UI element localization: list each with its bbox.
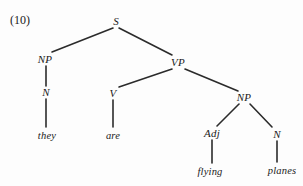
terminal-flying: flying (197, 166, 222, 177)
tree-edge-np2-to-n2 (250, 104, 272, 127)
tree-edge-vp-to-np2 (185, 69, 238, 91)
node-v: V (110, 87, 117, 99)
tree-edge-np2-to-adj (217, 104, 239, 126)
node-vp: VP (171, 56, 185, 68)
example-number: (10) (10, 13, 30, 28)
node-np2: NP (237, 91, 251, 103)
tree-edge-s-to-np1 (52, 28, 113, 52)
tree-edge-s-to-vp (119, 28, 172, 55)
syntax-tree-figure: SNPVPNVNPAdjNtheyareflyingplanes (10) (0, 0, 303, 186)
terminal-planes: planes (268, 165, 297, 176)
terminal-they: they (38, 130, 56, 141)
terminal-are: are (106, 130, 120, 141)
node-n2: N (273, 128, 281, 140)
tree-edge-vp-to-v (119, 69, 172, 87)
node-n1: N (42, 86, 50, 98)
node-s: S (113, 15, 119, 27)
node-np1: NP (38, 53, 52, 65)
node-adj: Adj (204, 127, 220, 139)
